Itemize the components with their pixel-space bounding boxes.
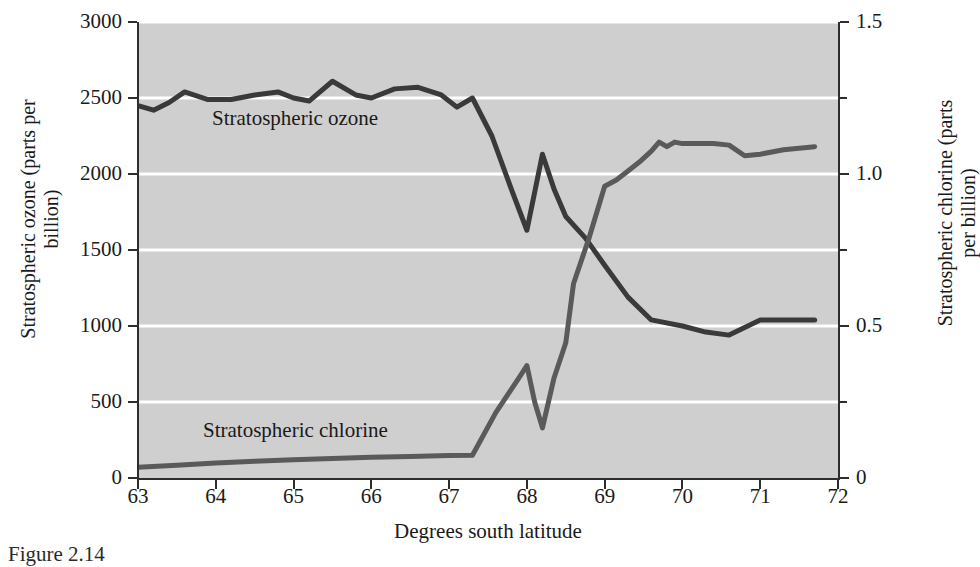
y-tick-left: [128, 249, 137, 251]
y-tick-label-left: 500: [52, 391, 122, 412]
y-tick-right: [840, 21, 849, 23]
y-tick-left: [128, 401, 137, 403]
y-tick-right: [840, 173, 849, 175]
x-tick-label: 72: [808, 486, 868, 507]
y-tick-left: [128, 97, 137, 99]
y-tick-right: [840, 477, 849, 479]
y-tick-label-left: 3000: [52, 11, 122, 32]
y-axis-left-title: Stratospheric ozone (parts per billion): [17, 94, 63, 344]
x-tick-label: 63: [108, 486, 168, 507]
y-tick-left: [128, 21, 137, 23]
y-tick-left: [128, 173, 137, 175]
y-axis-right-title: Stratospheric chlorine (parts per billio…: [934, 88, 980, 338]
figure-caption: Figure 2.14: [8, 542, 105, 567]
y-tick-right-minor: [840, 249, 847, 251]
y-tick-right: [840, 325, 849, 327]
plot-area: [138, 22, 838, 478]
x-tick-label: 66: [341, 486, 401, 507]
x-tick-label: 70: [652, 486, 712, 507]
y-tick-label-left: 0: [52, 467, 122, 488]
x-axis-line: [137, 478, 840, 480]
x-tick-label: 71: [730, 486, 790, 507]
x-tick-label: 64: [186, 486, 246, 507]
y-tick-right-minor: [840, 401, 847, 403]
chart-canvas: [138, 22, 838, 478]
x-tick-label: 67: [419, 486, 479, 507]
gridlines: [138, 22, 838, 402]
x-tick-label: 69: [575, 486, 635, 507]
y-tick-label-right: 0.5: [856, 315, 916, 336]
series-annotation-chlorine: Stratospheric chlorine: [203, 420, 388, 441]
y-tick-left: [128, 325, 137, 327]
y-tick-label-right: 1.0: [856, 163, 916, 184]
y-tick-left: [128, 477, 137, 479]
x-axis-title: Degrees south latitude: [338, 520, 638, 543]
y-axis-right-line: [838, 22, 840, 480]
series-annotation-ozone: Stratospheric ozone: [212, 108, 378, 129]
y-tick-label-right: 0: [856, 467, 916, 488]
x-tick-label: 65: [264, 486, 324, 507]
y-axis-left-line: [137, 22, 139, 480]
x-tick-label: 68: [497, 486, 557, 507]
y-tick-right-minor: [840, 97, 847, 99]
y-tick-label-right: 1.5: [856, 11, 916, 32]
